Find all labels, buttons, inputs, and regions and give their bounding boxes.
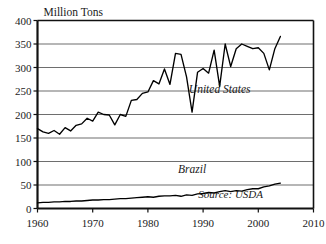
x-axis-tick-label: 2000 (247, 217, 270, 229)
x-axis-tick-label: 1980 (137, 217, 160, 229)
y-axis-tick-label: 350 (15, 38, 32, 50)
soybean-production-line-chart: 0501001502002503003504001960197019801990… (0, 0, 326, 244)
series-annotation-united-states: United States (189, 83, 251, 95)
y-axis-tick-label: 200 (15, 109, 32, 121)
y-axis-tick-label: 300 (15, 62, 32, 74)
y-axis-tick-label: 100 (15, 156, 32, 168)
chart-container: 0501001502002503003504001960197019801990… (0, 0, 326, 244)
x-axis-tick-label: 2010 (303, 217, 326, 229)
series-annotation-brazil: Brazil (178, 163, 206, 175)
y-axis-tick-label: 400 (15, 15, 32, 27)
y-axis-tick-label: 250 (15, 85, 32, 97)
source-attribution-label: Source: USDA (198, 188, 263, 200)
y-axis-tick-label: 50 (21, 179, 33, 191)
x-axis-tick-label: 1960 (27, 217, 50, 229)
x-axis-tick-label: 1970 (82, 217, 105, 229)
y-axis-tick-label: 0 (26, 203, 32, 215)
y-axis-tick-label: 150 (15, 132, 32, 144)
x-axis-tick-label: 1990 (192, 217, 215, 229)
y-axis-title: Million Tons (44, 6, 104, 18)
